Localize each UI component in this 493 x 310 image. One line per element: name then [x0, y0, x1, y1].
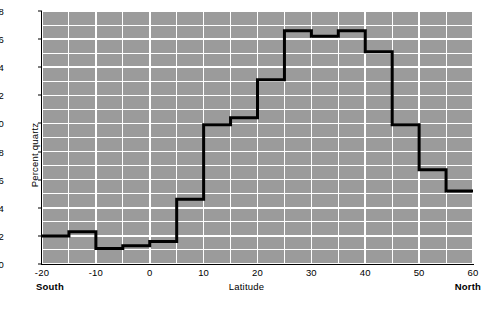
y-tick-mark [38, 67, 42, 68]
x-tick-label: 50 [414, 267, 425, 278]
y-tick-label: 14 [0, 62, 4, 73]
y-tick-label: 8 [0, 146, 4, 157]
y-tick-label: 16 [0, 34, 4, 45]
x-tick-label: 0 [147, 267, 152, 278]
south-annotation: South [36, 281, 64, 292]
y-axis-title: Percent quartz [29, 123, 40, 188]
x-tick-label: 40 [360, 267, 371, 278]
y-tick-mark [38, 235, 42, 236]
x-tick-label: 20 [252, 267, 263, 278]
y-tick-mark [38, 39, 42, 40]
x-tick-label: 60 [468, 267, 479, 278]
x-axis-line [41, 264, 474, 265]
step-series-quartz [42, 11, 473, 264]
y-tick-label: 4 [0, 202, 4, 213]
y-tick-label: 2 [0, 230, 4, 241]
x-tick-label: -20 [35, 267, 49, 278]
y-tick-mark [38, 11, 42, 12]
x-axis-title: Latitude [229, 281, 264, 292]
y-tick-label: 0 [0, 259, 4, 270]
north-annotation: North [455, 281, 481, 292]
x-tick-label: -10 [89, 267, 103, 278]
plot-area [42, 11, 473, 264]
y-tick-mark [38, 207, 42, 208]
chart-figure: 024681012141618 Percent quartz Latitude … [0, 0, 493, 310]
y-tick-label: 6 [0, 174, 4, 185]
y-tick-label: 18 [0, 6, 4, 17]
y-tick-label: 10 [0, 118, 4, 129]
x-tick-label: 30 [306, 267, 317, 278]
x-tick-label: 10 [198, 267, 209, 278]
y-tick-mark [38, 264, 42, 265]
y-tick-label: 12 [0, 90, 4, 101]
y-tick-mark [38, 95, 42, 96]
